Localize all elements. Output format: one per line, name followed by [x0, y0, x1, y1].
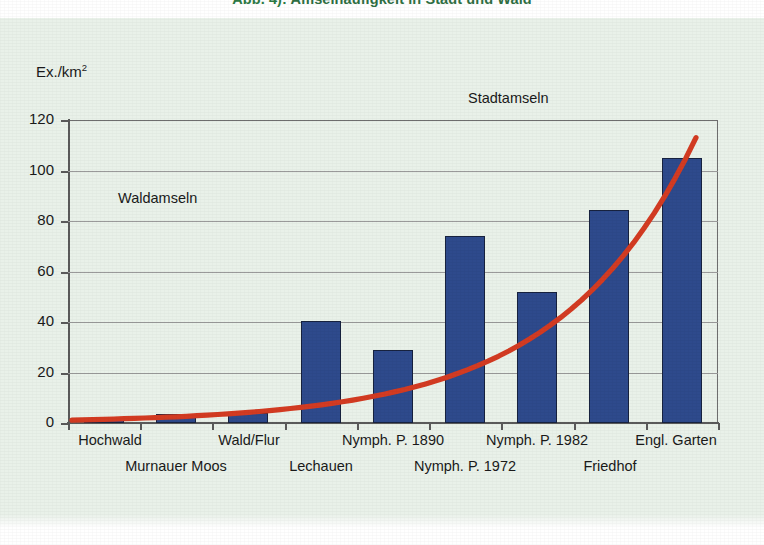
y-tick-label: 20 [0, 363, 54, 380]
y-tick-mark [61, 221, 68, 223]
x-tick-label: Hochwald [78, 432, 142, 448]
y-tick-label: 0 [0, 413, 54, 430]
bar [301, 321, 341, 423]
x-tick-mark [140, 423, 142, 430]
x-tick-label: Friedhof [583, 458, 636, 474]
bar [373, 350, 413, 423]
bar [445, 236, 485, 423]
bar [228, 413, 268, 423]
bar [589, 210, 629, 423]
x-tick-label: Engl. Garten [635, 432, 716, 448]
y-tick-label: 60 [0, 262, 54, 279]
figure-page: Abb. 4): Amselhäufigkeit in Stadt und Wa… [0, 0, 764, 545]
x-tick-mark [212, 423, 214, 430]
y-tick-mark [61, 272, 68, 274]
x-tick-label: Murnauer Moos [125, 458, 227, 474]
x-tick-label: Nymph. P. 1972 [414, 458, 516, 474]
bar [84, 419, 124, 423]
x-tick-label: Wald/Flur [218, 432, 280, 448]
x-tick-mark [574, 423, 576, 430]
y-tick-mark [61, 423, 68, 425]
x-tick-label: Nymph. P. 1982 [486, 432, 588, 448]
x-tick-mark [718, 423, 720, 430]
y-tick-label: 40 [0, 312, 54, 329]
y-tick-label: 100 [0, 161, 54, 178]
x-tick-mark [68, 423, 70, 430]
bar-chart: Ex./km2 020406080100120 Waldamseln Stadt… [0, 0, 764, 545]
bar [517, 292, 557, 423]
bar [662, 158, 702, 423]
x-tick-mark [429, 423, 431, 430]
x-tick-mark [357, 423, 359, 430]
gridline [68, 171, 718, 172]
y-tick-mark [61, 120, 68, 122]
x-tick-mark [501, 423, 503, 430]
y-axis-title-exponent: 2 [82, 62, 87, 73]
y-tick-mark [61, 171, 68, 173]
y-tick-mark [61, 322, 68, 324]
y-tick-mark [61, 373, 68, 375]
annotation-stadtamseln: Stadtamseln [468, 90, 549, 106]
y-tick-label: 120 [0, 110, 54, 127]
bar [156, 414, 196, 423]
x-tick-mark [285, 423, 287, 430]
y-axis-title-base: Ex./km [36, 63, 82, 80]
x-tick-label: Lechauen [289, 458, 353, 474]
annotation-waldamseln: Waldamseln [118, 190, 197, 206]
x-tick-mark [646, 423, 648, 430]
y-tick-label: 80 [0, 211, 54, 228]
y-axis-title: Ex./km2 [36, 62, 87, 80]
x-tick-label: Nymph. P. 1890 [342, 432, 444, 448]
